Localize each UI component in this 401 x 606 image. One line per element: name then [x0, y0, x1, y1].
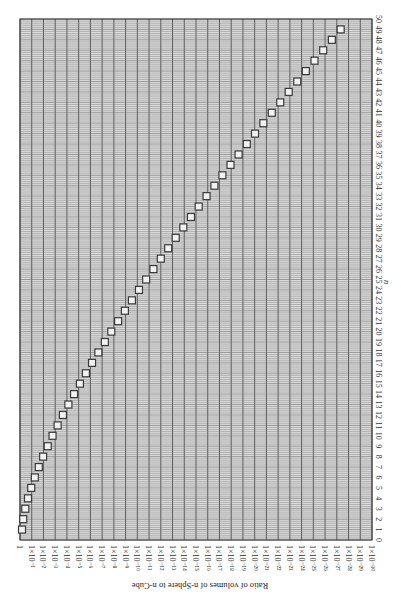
ratio-tick-label: 1×10⁻⁵ [74, 545, 83, 569]
data-point-marker [285, 88, 292, 95]
data-point-marker [121, 307, 128, 314]
n-tick-label: 42 [374, 98, 383, 106]
n-tick-label: 33 [374, 192, 383, 200]
n-tick-label: 20 [374, 328, 383, 336]
n-tick-label: 35 [374, 171, 383, 179]
n-tick-label: 41 [374, 109, 383, 117]
ratio-tick-label: 1×10⁻²⁸ [344, 545, 353, 571]
ratio-tick-label: 1×10⁻²¹ [261, 545, 270, 571]
n-tick-label: 5 [374, 486, 383, 490]
n-tick-label: 21 [374, 317, 383, 325]
data-point-marker [65, 401, 72, 408]
ratio-tick-label: 1×10⁻²⁴ [297, 545, 306, 571]
data-point-marker [277, 99, 284, 106]
n-tick-label: 24 [374, 286, 383, 294]
ratio-tick-label: 1×10⁻²³ [285, 545, 294, 571]
data-point-marker [150, 266, 157, 273]
data-point-marker [19, 526, 26, 533]
data-point-marker [211, 182, 218, 189]
ratio-tick-label: 1 [15, 545, 24, 549]
data-point-marker [227, 161, 234, 168]
ratio-axis-title: Ratio of volumes of n-Sphere to n-Cube [132, 581, 269, 591]
data-point-marker [260, 120, 267, 127]
n-tick-label: 15 [374, 380, 383, 388]
data-point-marker [157, 255, 164, 262]
n-tick-label: 34 [374, 182, 383, 190]
n-axis-tick-labels: 0123456789101112131415161718192021222324… [374, 15, 383, 542]
data-point-marker [294, 78, 301, 85]
data-point-marker [165, 245, 172, 252]
ratio-tick-label: 1×10⁻¹³ [168, 545, 177, 571]
n-axis-label: n [382, 280, 392, 284]
data-point-marker [89, 359, 96, 366]
data-point-marker [44, 443, 51, 450]
data-point-marker [172, 234, 179, 241]
n-tick-label: 10 [374, 432, 383, 440]
ratio-tick-label: 1×10⁻¹⁷ [214, 545, 223, 571]
ratio-axis-tick-labels: 11×10⁻¹1×10⁻²1×10⁻³1×10⁻⁴1×10⁻⁵1×10⁻⁶1×1… [15, 545, 376, 571]
data-point-marker [187, 213, 194, 220]
n-tick-label: 37 [374, 150, 383, 158]
ratio-tick-label: 1×10⁻¹⁶ [203, 545, 212, 571]
data-point-marker [195, 203, 202, 210]
data-point-marker [203, 193, 210, 200]
data-point-marker [71, 391, 78, 398]
ratio-tick-label: 1×10⁻⁴ [62, 545, 71, 569]
data-point-marker [101, 339, 108, 346]
n-tick-label: 11 [374, 422, 383, 430]
n-tick-label: 27 [374, 255, 383, 263]
n-tick-label: 36 [374, 161, 383, 169]
data-point-marker [76, 380, 83, 387]
ratio-tick-label: 1×10⁻²² [273, 545, 282, 571]
ratio-tick-label: 1×10⁻²⁹ [355, 545, 364, 571]
n-tick-label: 19 [374, 338, 383, 346]
n-tick-label: 47 [374, 46, 383, 54]
ratio-tick-label: 1×10⁻¹ [27, 545, 36, 569]
n-tick-label: 40 [374, 119, 383, 127]
data-point-marker [302, 68, 309, 75]
n-tick-label: 46 [374, 57, 383, 65]
n-tick-label: 38 [374, 140, 383, 148]
data-point-marker [108, 328, 115, 335]
n-tick-label: 3 [374, 507, 383, 511]
chart: 0123456789101112131415161718192021222324… [0, 0, 401, 606]
ratio-tick-label: 1×10⁻³⁰ [367, 545, 376, 571]
ratio-tick-label: 1×10⁻¹⁸ [226, 545, 235, 571]
ratio-tick-label: 1×10⁻³ [50, 545, 59, 569]
data-point-marker [311, 57, 318, 64]
n-tick-label: 50 [374, 15, 383, 23]
ratio-tick-label: 1×10⁻⁸ [109, 545, 118, 569]
n-tick-label: 32 [374, 203, 383, 211]
data-point-marker [22, 505, 29, 512]
n-tick-label: 28 [374, 244, 383, 252]
n-tick-label: 16 [374, 369, 383, 377]
n-tick-label: 23 [374, 296, 383, 304]
n-tick-label: 6 [374, 475, 383, 479]
n-tick-label: 14 [374, 390, 383, 398]
ratio-tick-label: 1×10⁻¹⁰ [132, 545, 141, 571]
data-point-marker [40, 453, 47, 460]
ratio-tick-label: 1×10⁻¹² [156, 545, 165, 571]
n-tick-label: 44 [374, 78, 383, 86]
data-point-marker [115, 318, 122, 325]
n-tick-label: 1 [374, 528, 383, 532]
data-point-marker [243, 141, 250, 148]
n-tick-label: 45 [374, 67, 383, 75]
data-point-marker [82, 370, 89, 377]
data-point-marker [268, 109, 275, 116]
n-tick-label: 30 [374, 223, 383, 231]
n-tick-label: 26 [374, 265, 383, 273]
data-point-marker [28, 484, 35, 491]
ratio-tick-label: 1×10⁻⁹ [121, 545, 130, 569]
data-point-marker [20, 516, 27, 523]
data-point-marker [59, 411, 66, 418]
data-point-marker [320, 47, 327, 54]
n-tick-label: 29 [374, 234, 383, 242]
data-point-marker [95, 349, 102, 356]
ratio-tick-label: 1×10⁻¹¹ [144, 545, 153, 571]
n-tick-label: 8 [374, 455, 383, 459]
data-point-marker [180, 224, 187, 231]
n-tick-label: 43 [374, 88, 383, 96]
data-point-marker [31, 474, 38, 481]
n-tick-label: 9 [374, 444, 383, 448]
